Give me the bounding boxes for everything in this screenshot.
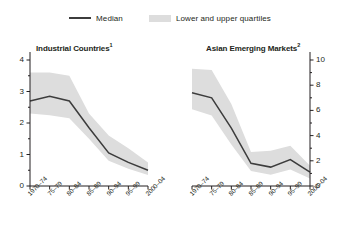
y-tick-label: 3: [0, 87, 24, 96]
chart-svg-left: [0, 42, 172, 232]
y-tick-label: 2: [0, 118, 24, 127]
quartile-band: [30, 73, 148, 175]
legend-label-quartiles: Lower and upper quartiles: [176, 14, 271, 23]
chart-svg-right: [168, 42, 340, 232]
y-tick-label: 4: [0, 55, 24, 64]
y-tick-label: 0: [0, 181, 24, 190]
y-tick-label: 6: [316, 105, 320, 114]
y-tick-label: 10: [316, 55, 325, 64]
y-tick-label: 8: [316, 80, 320, 89]
legend-item-median: Median: [69, 14, 123, 23]
median-line-swatch-icon: [69, 17, 91, 19]
legend-item-quartiles: Lower and upper quartiles: [149, 14, 271, 23]
y-tick-label: 2: [316, 156, 320, 165]
plot-area-right: 02468101970–7475–7980–8485–8990–9495–992…: [168, 42, 340, 232]
figure-container: Median Lower and upper quartiles Industr…: [0, 0, 340, 237]
y-tick-label: 4: [316, 131, 320, 140]
chart-legend: Median Lower and upper quartiles: [0, 10, 340, 26]
plot-area-left: 012341970–7475–7980–8485–8990–9495–99200…: [0, 42, 172, 232]
y-tick-label: 1: [0, 150, 24, 159]
quartile-band-swatch-icon: [149, 15, 171, 22]
legend-label-median: Median: [96, 14, 123, 23]
panel-asian-emerging-markets: Asian Emerging Markets2 02468101970–7475…: [168, 42, 340, 232]
panel-industrial-countries: Industrial Countries1 012341970–7475–798…: [0, 42, 172, 232]
